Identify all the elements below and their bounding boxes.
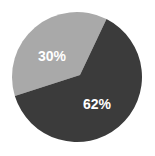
slice-label-dark: 62% bbox=[83, 96, 112, 112]
pie-slices bbox=[12, 12, 142, 142]
slice-label-light: 30% bbox=[38, 48, 67, 64]
pie-chart: 30% 62% bbox=[0, 0, 155, 156]
